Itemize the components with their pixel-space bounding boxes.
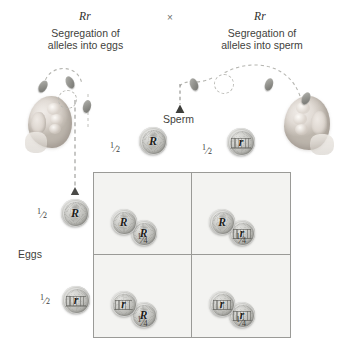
punnett-cell-rr-hetero-top[interactable]: R r 1⁄4	[192, 173, 290, 255]
punnett-cell-fraction: 1⁄4	[94, 232, 191, 245]
frac-denom: 4	[144, 236, 148, 245]
caption-eggs-line1: Segregation of	[18, 27, 153, 39]
allele-letter: R	[139, 127, 167, 155]
sperm-gamete-2-coin: r	[227, 128, 255, 156]
hand-knuckle	[295, 124, 308, 135]
caption-eggs-line2: alleles into eggs	[18, 39, 153, 51]
maternal-genotype-label: Rr	[30, 10, 140, 22]
allele-letter: r	[209, 291, 235, 317]
paternal-genotype-label: Rr	[205, 10, 315, 22]
frac-denom: 2	[46, 297, 50, 306]
sperm-label: Sperm	[163, 113, 194, 125]
allele-letter: r	[111, 291, 137, 317]
hand-thumb	[311, 111, 328, 135]
hand-knuckle	[47, 103, 60, 114]
egg-gamete-2-fraction: 1⁄2	[40, 293, 50, 306]
punnett-cell-fraction: 1⁄4	[192, 315, 290, 328]
coin-toss-path-left	[44, 68, 82, 86]
egg-gamete-1-coin: R	[61, 199, 89, 227]
punnett-cell-rr-hetero-bottom[interactable]: r R 1⁄4	[94, 255, 192, 337]
frac-denom: 4	[144, 319, 148, 328]
egg-gamete-2-coin: r	[62, 286, 90, 314]
arrow-down-icon-sperm	[176, 104, 185, 113]
coin-toss-path-right	[222, 65, 300, 96]
caption-sperm-line2: alleles into sperm	[192, 39, 332, 51]
frac-denom: 2	[116, 145, 120, 154]
allele-letter: r	[62, 286, 90, 314]
punnett-cell-fraction: 1⁄4	[192, 232, 290, 245]
coin-ghost-left	[58, 90, 77, 109]
coin-ghost-right	[214, 74, 234, 94]
hand-knuckle	[50, 114, 63, 125]
hand-right-flipping-coin-icon	[284, 96, 330, 150]
punnett-square-grid: R R 1⁄4	[93, 172, 291, 338]
caption-eggs: Segregation of alleles into eggs	[18, 27, 153, 52]
caption-sperm-line1: Segregation of	[192, 27, 332, 39]
allele-letter: R	[61, 199, 89, 227]
egg-gamete-1-fraction: 1⁄2	[37, 207, 47, 220]
arrow-down-icon-egg	[71, 187, 79, 195]
hand-knuckle	[293, 113, 307, 124]
frac-denom: 4	[242, 236, 246, 245]
sperm-gamete-1-fraction: 1⁄2	[110, 141, 120, 154]
sperm-gamete-1-coin: R	[139, 127, 167, 155]
frac-denom: 4	[242, 319, 246, 328]
offspring-coin-a: r	[209, 291, 235, 317]
punnett-square-figure: Rr × Rr Segregation of alleles into eggs…	[0, 0, 340, 358]
sperm-gamete-2-fraction: 1⁄2	[202, 143, 212, 156]
cross-symbol: ×	[153, 12, 187, 23]
eggs-label: Eggs	[18, 248, 42, 260]
punnett-cell-rr-recessive[interactable]: r r 1⁄4	[192, 255, 290, 337]
punnett-cell-fraction: 1⁄4	[94, 315, 191, 328]
allele-letter: r	[227, 128, 255, 156]
frac-denom: 2	[208, 147, 212, 156]
punnett-cell-rr-dominant[interactable]: R R 1⁄4	[94, 173, 192, 255]
hand-cuff	[310, 134, 334, 156]
caption-sperm: Segregation of alleles into sperm	[192, 27, 332, 52]
frac-denom: 2	[43, 211, 47, 220]
hand-cuff	[25, 132, 47, 153]
offspring-coin-a: r	[111, 291, 137, 317]
